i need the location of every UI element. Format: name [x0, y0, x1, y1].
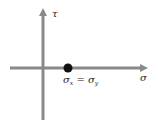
- point-label-sub-y: y: [94, 79, 99, 87]
- tau-arrowhead-icon: [39, 8, 47, 16]
- sigma-axis: [10, 64, 148, 72]
- sigma-arrowhead-icon: [140, 64, 148, 72]
- sigma-label: σ: [140, 72, 148, 83]
- point-label-equals: = σ: [73, 74, 96, 85]
- stress-point: [64, 64, 73, 73]
- point-label: σx = σy: [63, 74, 99, 87]
- tau-axis: [39, 8, 47, 120]
- tau-label: τ: [52, 8, 58, 19]
- mohr-diagram: τ σ σx = σy: [0, 0, 160, 127]
